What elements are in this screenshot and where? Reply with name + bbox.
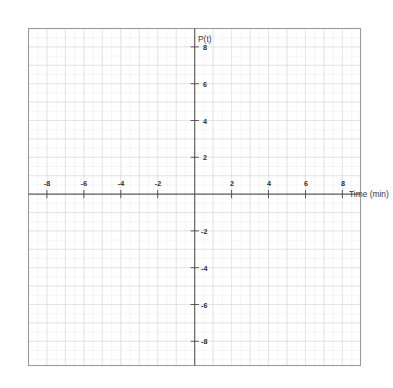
y-axis-title: P(t) <box>198 34 212 44</box>
y-tick-label-4: 4 <box>203 117 207 126</box>
y-tick-label-6: 6 <box>203 80 207 89</box>
x-tick-label--4: -4 <box>118 179 124 188</box>
y-tick-label-2: 2 <box>203 153 207 162</box>
y-tick-label--8: -8 <box>201 337 207 346</box>
x-tick-label-4: 4 <box>267 179 271 188</box>
x-tick-label-6: 6 <box>304 179 308 188</box>
coordinate-grid-figure: -8 -6 -4 -2 2 4 6 8 8 6 4 2 -2 -4 -6 -8 … <box>0 0 393 388</box>
x-tick-label--6: -6 <box>81 179 87 188</box>
y-tick-label-8: 8 <box>203 43 207 52</box>
x-tick-label-8: 8 <box>341 179 345 188</box>
x-tick-label--8: -8 <box>44 179 50 188</box>
y-tick-label--4: -4 <box>201 264 207 273</box>
x-axis-title: Time (min) <box>349 189 389 199</box>
y-tick-label--2: -2 <box>201 227 207 236</box>
y-tick-label--6: -6 <box>201 301 207 310</box>
x-tick-label-2: 2 <box>230 179 234 188</box>
x-tick-label--2: -2 <box>155 179 161 188</box>
graph-svg: -8 -6 -4 -2 2 4 6 8 8 6 4 2 -2 -4 -6 -8 … <box>0 0 393 388</box>
